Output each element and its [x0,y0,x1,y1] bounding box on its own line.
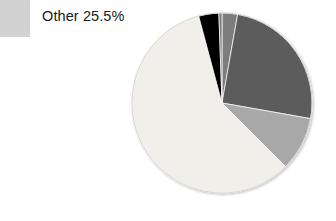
pie-chart-figure: Other 25.5% [0,0,336,221]
chart-legend: Other 25.5% [0,0,125,37]
legend-swatch-icon [0,0,30,37]
pie-slices-group [132,13,312,193]
legend-item-label: Other 25.5% [42,9,125,24]
slice-dark-gray[interactable] [222,14,312,118]
legend-item-other[interactable]: Other 25.5% [0,0,125,37]
